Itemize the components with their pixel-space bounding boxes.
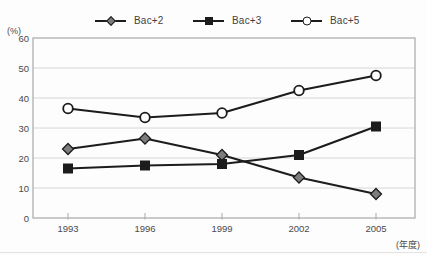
bottom-edge-line <box>0 252 427 253</box>
svg-text:0: 0 <box>24 213 29 224</box>
svg-text:1999: 1999 <box>211 223 232 234</box>
svg-text:20: 20 <box>18 153 29 164</box>
svg-text:2005: 2005 <box>365 223 386 234</box>
svg-text:1993: 1993 <box>57 223 78 234</box>
svg-text:40: 40 <box>18 93 29 104</box>
chart-canvas: 199319961999200220050102030405060 <box>0 0 427 255</box>
svg-text:60: 60 <box>18 33 29 44</box>
svg-text:30: 30 <box>18 123 29 134</box>
svg-text:1996: 1996 <box>134 223 155 234</box>
svg-text:50: 50 <box>18 63 29 74</box>
x-axis-unit-label: (年度) <box>396 238 420 251</box>
line-chart-figure: Bac+2 Bac+3 Bac+5 (%) 199319961999200220… <box>0 0 427 255</box>
svg-text:10: 10 <box>18 183 29 194</box>
svg-text:2002: 2002 <box>288 223 309 234</box>
